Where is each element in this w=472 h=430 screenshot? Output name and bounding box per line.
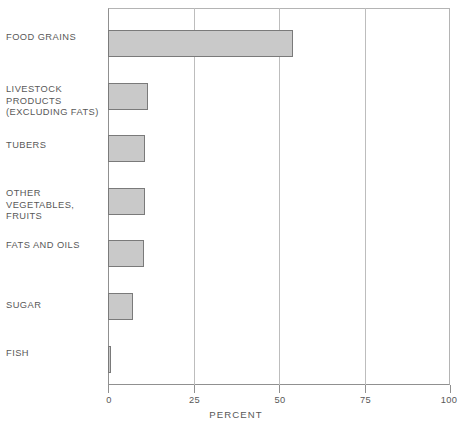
bar-food-grains — [108, 30, 293, 57]
xtick-100 — [450, 385, 451, 393]
bar-fish — [108, 346, 111, 373]
bar-fats-and-oils — [108, 240, 144, 267]
gridline-25 — [194, 8, 195, 385]
x-axis-title: PERCENT — [0, 409, 472, 420]
xtick-75 — [365, 385, 366, 393]
category-label-other-vegetables-fruits: OTHER VEGETABLES, FRUITS — [6, 188, 106, 223]
xtick-label-25: 25 — [189, 395, 200, 405]
category-label-food-grains: FOOD GRAINS — [6, 32, 106, 44]
bar-chart: FOOD GRAINS LIVESTOCK PRODUCTS (EXCLUDIN… — [0, 0, 472, 430]
xtick-50 — [279, 385, 280, 393]
xtick-25 — [194, 385, 195, 393]
category-label-fats-and-oils: FATS AND OILS — [6, 240, 106, 252]
gridline-50 — [279, 8, 280, 385]
bar-tubers — [108, 135, 145, 162]
xtick-label-100: 100 — [441, 395, 458, 405]
category-label-livestock-products: LIVESTOCK PRODUCTS (EXCLUDING FATS) — [6, 84, 106, 119]
category-label-tubers: TUBERS — [6, 140, 106, 152]
category-label-sugar: SUGAR — [6, 300, 106, 312]
xtick-label-75: 75 — [360, 395, 371, 405]
xtick-0 — [108, 385, 109, 393]
gridline-75 — [365, 8, 366, 385]
category-label-fish: FISH — [6, 348, 106, 360]
xtick-label-50: 50 — [274, 395, 285, 405]
xtick-label-0: 0 — [106, 395, 112, 405]
bar-other-vegetables-fruits — [108, 188, 145, 215]
bar-livestock-products — [108, 83, 148, 110]
bar-sugar — [108, 293, 133, 320]
